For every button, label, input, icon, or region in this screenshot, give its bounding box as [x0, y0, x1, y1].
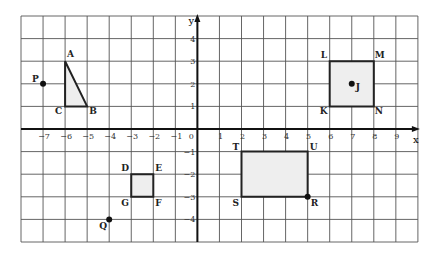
point-label-t: T: [233, 142, 240, 152]
x-tick-label: 8: [372, 132, 377, 141]
point-label-d: D: [121, 163, 129, 173]
x-tick-label: −3: [126, 132, 138, 141]
point-label-r: R: [311, 198, 319, 208]
y-tick-label: 3: [190, 57, 195, 66]
point-label-n: N: [375, 106, 383, 116]
point-label-u: U: [310, 142, 318, 152]
point-label-p: P: [32, 74, 39, 84]
point-q-dot: [106, 216, 112, 222]
x-tick-label: 6: [328, 132, 333, 141]
x-tick-label: 9: [394, 132, 399, 141]
point-label-k: K: [320, 106, 329, 116]
y-tick-label: −1: [184, 148, 196, 157]
origin-label: 0: [189, 132, 194, 141]
coordinate-plane: xy −7−6−5−4−3−2−112345678904321−1−2−3−4 …: [0, 0, 437, 255]
axes: xy: [21, 14, 420, 242]
point-label-s: S: [233, 198, 240, 208]
x-tick-label: −6: [60, 132, 72, 141]
x-tick-label: −2: [148, 132, 160, 141]
point-label-g: G: [121, 198, 129, 208]
x-axis-arrow-icon: [412, 126, 420, 132]
x-tick-label: −7: [38, 132, 50, 141]
x-tick-label: 4: [284, 132, 289, 141]
y-axis-arrow-icon: [194, 14, 200, 22]
x-tick-label: 1: [218, 132, 223, 141]
coordinate-grid-diagram: xy −7−6−5−4−3−2−112345678904321−1−2−3−4 …: [0, 0, 437, 255]
point-label-m: M: [375, 50, 385, 60]
y-tick-label: −4: [184, 215, 196, 224]
x-tick-label: 5: [306, 132, 311, 141]
x-tick-label: 2: [240, 132, 245, 141]
point-label-j: J: [355, 82, 360, 92]
y-tick-label: 1: [190, 102, 195, 111]
point-label-f: F: [155, 198, 162, 208]
y-axis-label: y: [187, 15, 194, 26]
y-tick-label: −2: [184, 170, 196, 179]
x-tick-label: 3: [262, 132, 267, 141]
point-label-l: L: [321, 50, 328, 60]
point-p-dot: [40, 81, 46, 87]
point-label-q: Q: [99, 221, 107, 231]
x-tick-label: −5: [82, 132, 94, 141]
rectangle-STUR: [242, 152, 308, 197]
x-axis-label: x: [413, 134, 419, 145]
y-tick-label: 4: [190, 35, 195, 44]
point-j-dot: [349, 81, 355, 87]
point-label-b: B: [89, 106, 97, 116]
square-DEFG: [131, 174, 153, 197]
x-tick-label: −1: [170, 132, 182, 141]
x-tick-label: 7: [350, 132, 355, 141]
point-label-c: C: [55, 106, 62, 116]
point-label-a: A: [66, 49, 75, 59]
x-tick-label: −4: [104, 132, 116, 141]
y-tick-label: 2: [190, 80, 195, 89]
point-label-e: E: [155, 163, 162, 173]
y-tick-label: −3: [184, 193, 196, 202]
